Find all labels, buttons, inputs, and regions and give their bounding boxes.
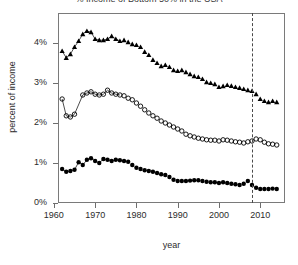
data-point (217, 181, 221, 185)
vertical-reference-line (252, 13, 253, 203)
x-tick-label: 1970 (77, 210, 113, 220)
data-point (246, 140, 250, 144)
data-point (151, 170, 155, 174)
data-series-layer (58, 13, 285, 203)
data-point (229, 182, 233, 186)
data-point (237, 183, 241, 187)
data-point (179, 68, 184, 73)
data-point (130, 163, 134, 167)
data-point (220, 84, 225, 89)
data-point (97, 161, 101, 165)
data-point (114, 158, 118, 162)
data-point (258, 138, 262, 142)
data-point (266, 100, 271, 105)
data-point (72, 44, 77, 49)
data-point (89, 156, 93, 160)
data-point (138, 167, 142, 171)
data-point (200, 137, 204, 141)
data-point (192, 178, 196, 182)
data-point (93, 159, 97, 163)
data-point (159, 64, 164, 69)
data-point (204, 80, 209, 85)
data-point (171, 178, 175, 182)
data-point (76, 160, 80, 164)
data-point (184, 179, 188, 183)
data-point (138, 104, 142, 108)
data-point (142, 49, 147, 54)
data-point (134, 166, 138, 170)
data-point (175, 179, 179, 183)
data-point (109, 34, 114, 39)
y-axis-label: percent of income (7, 57, 17, 137)
data-point (225, 181, 229, 185)
data-point (147, 111, 151, 115)
data-point (84, 28, 89, 33)
data-point (150, 57, 155, 62)
data-point (270, 186, 274, 190)
data-point (60, 48, 65, 53)
data-point (60, 167, 64, 171)
data-point (134, 42, 139, 47)
data-point (258, 187, 262, 191)
data-point (180, 179, 184, 183)
data-point (80, 32, 85, 37)
x-tick-label: 1960 (36, 210, 72, 220)
data-point (209, 180, 213, 184)
data-point (274, 100, 279, 105)
series-bottom-series-filled-circles (60, 156, 279, 191)
data-point (101, 157, 105, 161)
chart-title: % Income of Bottom 50% in the USA (0, 0, 298, 4)
data-point (275, 143, 279, 147)
data-point (200, 179, 204, 183)
data-point (241, 86, 246, 91)
y-tick-label: 2% (17, 117, 47, 127)
x-tick-label: 2010 (242, 210, 278, 220)
data-point (154, 60, 159, 65)
data-point (122, 94, 126, 98)
data-point (266, 187, 270, 191)
y-tick-label: 4% (17, 37, 47, 47)
data-point (155, 116, 159, 120)
data-point (109, 159, 113, 163)
data-point (258, 96, 263, 101)
data-point (233, 84, 238, 89)
data-point (105, 158, 109, 162)
x-tick-label: 1990 (160, 210, 196, 220)
data-point (213, 180, 217, 184)
data-point (270, 98, 275, 103)
y-tick-label: 3% (17, 77, 47, 87)
data-point (163, 62, 168, 67)
data-point (196, 74, 201, 79)
data-point (242, 182, 246, 186)
data-point (221, 180, 225, 184)
data-point (81, 163, 85, 167)
series-middle-series-open-circles (60, 88, 279, 147)
data-point (180, 129, 184, 133)
x-tick-mark (219, 203, 220, 208)
data-point (246, 179, 250, 183)
x-tick-mark (178, 203, 179, 208)
y-tick-label: 0% (17, 197, 47, 207)
data-point (113, 36, 118, 41)
data-point (155, 171, 159, 175)
data-point (72, 168, 76, 172)
data-point (225, 82, 230, 87)
data-point (196, 136, 200, 140)
data-point (196, 178, 200, 182)
data-point (212, 82, 217, 87)
x-tick-mark (95, 203, 96, 208)
data-point (105, 36, 110, 41)
data-point (204, 180, 208, 184)
chart-root: % Income of Bottom 50% in the USA percen… (0, 0, 298, 265)
data-point (147, 169, 151, 173)
data-point (142, 168, 146, 172)
data-point (171, 68, 176, 73)
data-point (76, 38, 81, 43)
x-tick-mark (54, 203, 55, 208)
data-point (163, 173, 167, 177)
x-tick-mark (260, 203, 261, 208)
data-point (85, 158, 89, 162)
data-point (229, 139, 233, 143)
x-tick-label: 1980 (118, 210, 154, 220)
data-point (68, 52, 73, 57)
